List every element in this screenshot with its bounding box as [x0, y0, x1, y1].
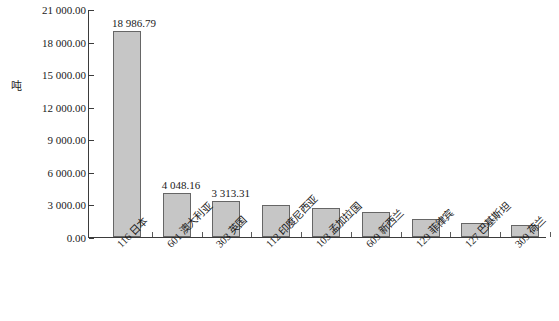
x-axis-category-labels: 116 日本601 澳大利亚303 英国112 印度尼西亚103 孟加拉国609…: [88, 240, 546, 321]
x-axis-tick-mark: [202, 232, 203, 237]
y-axis-tick-mark: [89, 10, 94, 11]
x-axis-tick-mark: [152, 232, 153, 237]
y-axis-line: [88, 10, 89, 238]
y-axis-tick-mark: [89, 43, 94, 44]
bar-chart: 吨 21 000.0018 000.0015 000.0012 000.009 …: [0, 0, 559, 321]
x-axis-tick-mark: [450, 232, 451, 237]
bar-value-label: 3 313.31: [211, 187, 250, 199]
bar: [113, 31, 141, 237]
bar-value-label: 18 986.79: [112, 17, 156, 29]
y-axis-tick-mark: [89, 108, 94, 109]
y-axis-tick-label: 15 000.00: [2, 70, 86, 81]
y-axis-tick-mark: [89, 140, 94, 141]
y-axis-tick-mark: [89, 173, 94, 174]
y-axis-tick-labels: 21 000.0018 000.0015 000.0012 000.009 00…: [0, 0, 86, 250]
y-axis-tick-label: 9 000.00: [2, 135, 86, 146]
x-axis-tick-mark: [351, 232, 352, 237]
bar-value-label: 4 048.16: [162, 179, 201, 191]
x-axis-tick-mark: [251, 232, 252, 237]
y-axis-tick-mark: [89, 205, 94, 206]
x-axis-tick-mark: [401, 232, 402, 237]
y-axis-tick-label: 21 000.00: [2, 5, 86, 16]
x-axis-tick-mark: [301, 232, 302, 237]
y-axis-tick-label: 18 000.00: [2, 38, 86, 49]
x-axis-tick-mark: [550, 232, 551, 237]
y-axis-tick-label: 6 000.00: [2, 168, 86, 179]
x-axis-tick-mark: [500, 232, 501, 237]
y-axis-tick-mark: [89, 75, 94, 76]
y-axis-tick-mark: [89, 238, 94, 239]
y-axis-tick-label: 3 000.00: [2, 200, 86, 211]
y-axis-tick-label: 12 000.00: [2, 103, 86, 114]
y-axis-tick-label: 0.00: [2, 233, 86, 244]
